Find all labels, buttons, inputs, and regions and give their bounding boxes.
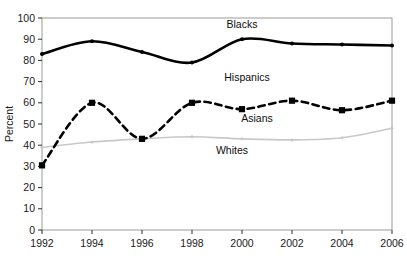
y-axis-tick-label: 60 <box>23 96 35 108</box>
data-point-marker <box>39 162 45 168</box>
x-axis-tick-label: 2000 <box>230 237 254 249</box>
data-point-marker <box>40 52 44 56</box>
data-point-marker <box>341 136 344 139</box>
x-axis-tick-label: 2004 <box>330 237 354 249</box>
data-point-marker <box>290 41 294 45</box>
data-point-marker <box>241 137 244 140</box>
y-axis-tick-label: 70 <box>23 75 35 87</box>
y-axis-tick-label: 0 <box>29 224 35 236</box>
x-axis-tick-label: 1998 <box>180 237 204 249</box>
data-point-marker <box>90 39 94 43</box>
x-axis-tick-label: 2006 <box>380 237 404 249</box>
series-line <box>42 38 392 62</box>
y-axis-tick-label: 100 <box>17 12 35 24</box>
y-axis-tick-label: 30 <box>23 160 35 172</box>
x-axis-tick-label: 2002 <box>280 237 304 249</box>
data-point-marker <box>41 146 44 149</box>
x-axis-tick-label: 1992 <box>30 237 54 249</box>
y-axis-tick-label: 80 <box>23 54 35 66</box>
y-axis-tick-label: 20 <box>23 181 35 193</box>
x-axis-tick-label: 1994 <box>80 237 104 249</box>
y-axis-tick-label: 40 <box>23 139 35 151</box>
series-annotation-blacks: Blacks <box>227 18 258 30</box>
data-point-marker <box>390 44 394 48</box>
data-point-marker <box>190 61 194 65</box>
data-point-marker <box>291 138 294 141</box>
data-point-marker <box>89 100 95 106</box>
data-point-marker <box>339 107 345 113</box>
data-point-marker <box>140 50 144 54</box>
series-annotation-asians: Asians <box>241 112 273 124</box>
series-annotation-hispanics: Hispanics <box>224 71 270 83</box>
data-point-marker <box>240 37 244 41</box>
series-blacks <box>40 37 394 64</box>
data-point-marker <box>289 98 295 104</box>
data-point-marker <box>91 141 94 144</box>
data-point-marker <box>389 98 395 104</box>
y-axis-tick-label: 90 <box>23 33 35 45</box>
chart-figure: 0102030405060708090100199219941996199820… <box>0 0 407 258</box>
series-annotation-whites: Whites <box>216 144 248 156</box>
data-point-marker <box>391 127 394 130</box>
data-point-marker <box>340 43 344 47</box>
y-axis-tick-label: 50 <box>23 118 35 130</box>
x-axis-tick-label: 1996 <box>130 237 154 249</box>
data-point-marker <box>189 100 195 106</box>
y-axis-title: Percent <box>3 106 15 142</box>
data-point-marker <box>139 136 145 142</box>
data-point-marker <box>191 135 194 138</box>
y-axis-tick-label: 10 <box>23 202 35 214</box>
line-chart: 0102030405060708090100199219941996199820… <box>0 0 407 258</box>
series-hispanics <box>39 98 395 169</box>
